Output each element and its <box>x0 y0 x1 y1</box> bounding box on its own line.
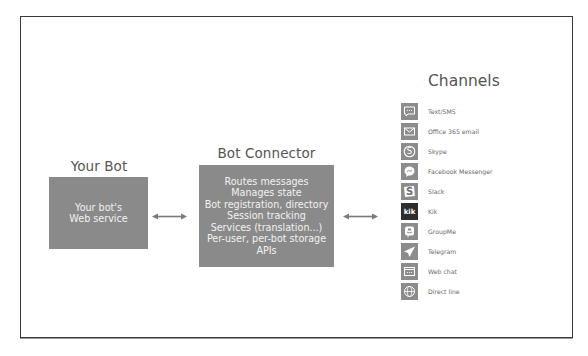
channel-slack: S Slack <box>401 183 493 200</box>
channel-label: Telegram <box>428 248 456 255</box>
channel-label: GroupMe <box>428 228 456 235</box>
channel-list: Text/SMS Office 365 email S Skype Fa <box>401 103 493 303</box>
messenger-icon <box>401 163 418 180</box>
connector-feature: Session tracking <box>227 210 306 221</box>
connector-feature: Services (translation...) <box>211 222 323 233</box>
connector-feature: APIs <box>256 245 276 256</box>
your-bot-line: Web service <box>69 213 127 224</box>
channel-office-365-email: Office 365 email <box>401 123 493 140</box>
your-bot-line: Your bot's <box>75 202 122 213</box>
svg-text:kik: kik <box>404 208 416 216</box>
svg-text:S: S <box>407 146 412 156</box>
connector-feature: Per-user, per-bot storage <box>207 233 326 244</box>
svg-text:S: S <box>406 186 413 197</box>
telegram-icon <box>401 243 418 260</box>
bot-connector-title: Bot Connector <box>199 145 334 161</box>
your-bot-box: Your bot's Web service <box>49 177 148 249</box>
skype-icon: S <box>401 143 418 160</box>
channel-kik: kik Kik <box>401 203 493 220</box>
channel-groupme: GroupMe <box>401 223 493 240</box>
channel-label: Slack <box>428 188 444 195</box>
channel-telegram: Telegram <box>401 243 493 260</box>
channel-label: Facebook Messenger <box>428 168 493 175</box>
channel-label: Text/SMS <box>428 108 456 115</box>
channel-direct-line: Direct line <box>401 283 493 300</box>
slack-icon: S <box>401 183 418 200</box>
sms-icon <box>401 103 418 120</box>
kik-icon: kik <box>401 203 418 220</box>
channels-title: Channels <box>428 72 500 90</box>
bidirectional-arrow-icon <box>343 212 378 221</box>
connector-feature: Manages state <box>231 187 301 198</box>
channel-text-sms: Text/SMS <box>401 103 493 120</box>
channel-label: Direct line <box>428 288 460 295</box>
bot-connector-box: Routes messages Manages state Bot regist… <box>199 165 334 267</box>
bidirectional-arrow-icon <box>152 212 187 221</box>
channel-label: Web chat <box>428 268 457 275</box>
channel-web-chat: Web chat <box>401 263 493 280</box>
your-bot-title: Your Bot <box>49 158 149 174</box>
directline-icon <box>401 283 418 300</box>
channel-facebook-messenger: Facebook Messenger <box>401 163 493 180</box>
connector-feature: Bot registration, directory <box>205 199 329 210</box>
groupme-icon <box>401 223 418 240</box>
channel-skype: S Skype <box>401 143 493 160</box>
channel-label: Skype <box>428 148 447 155</box>
connector-feature: Routes messages <box>224 176 308 187</box>
channel-label: Kik <box>428 208 437 215</box>
channel-label: Office 365 email <box>428 128 479 135</box>
email-icon <box>401 123 418 140</box>
webchat-icon <box>401 263 418 280</box>
